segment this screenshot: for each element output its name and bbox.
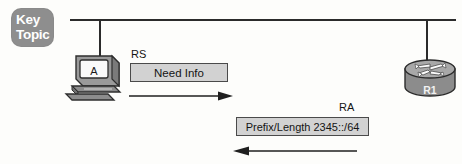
arrow-right-icon: [129, 88, 233, 106]
message-box-rs: Need Info: [130, 63, 228, 82]
protocol-label-rs: RS: [131, 48, 146, 60]
router-label: R1: [401, 84, 459, 96]
protocol-label-ra: RA: [339, 101, 354, 113]
ethernet-bus-line: [70, 19, 456, 21]
pc-workstation-glyph: [62, 52, 132, 104]
router-icon: R1: [401, 57, 459, 107]
message-box-ra: Prefix/Length 2345::/64: [236, 117, 369, 136]
router-glyph: [401, 57, 459, 107]
arrow-left-icon: [233, 143, 357, 161]
network-diagram-figure: Key Topic A: [0, 0, 462, 164]
key-topic-line-2: Topic: [12, 27, 53, 42]
host-label: A: [86, 65, 102, 77]
pc-workstation-icon: A: [62, 52, 132, 104]
key-topic-badge: Key Topic: [12, 9, 53, 46]
arrow-right-glyph: [129, 90, 233, 102]
arrow-left-glyph: [233, 145, 357, 157]
key-topic-line-1: Key: [12, 9, 53, 27]
